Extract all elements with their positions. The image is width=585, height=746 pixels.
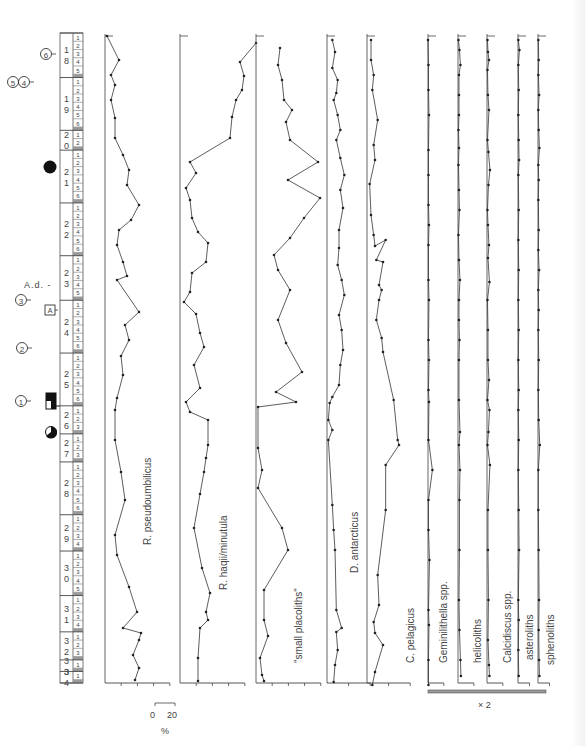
svg-text:1: 1 <box>76 152 80 158</box>
event-markers: 6 5 4 A.d. - 3 A 2 <box>8 49 61 439</box>
svg-text:4: 4 <box>76 622 80 628</box>
svg-text:4: 4 <box>76 104 80 110</box>
core-29: 291234 <box>60 515 83 551</box>
svg-text:4: 4 <box>76 541 80 547</box>
svg-text:4: 4 <box>76 380 80 386</box>
svg-text:2: 2 <box>76 266 80 272</box>
label-d-antarcticus: D. antarcticus <box>349 512 360 573</box>
panel-3 <box>327 34 370 686</box>
svg-text:3: 3 <box>64 667 69 677</box>
label-r-pseudoumbilicus: R. pseudoumbilicus <box>142 458 153 545</box>
svg-text:1: 1 <box>19 398 24 407</box>
svg-text:2: 2 <box>76 642 80 648</box>
svg-text:2: 2 <box>76 472 80 478</box>
svg-text:1: 1 <box>76 132 80 138</box>
svg-text:1: 1 <box>64 45 69 55</box>
svg-text:4: 4 <box>76 282 80 288</box>
svg-text:3: 3 <box>76 533 80 539</box>
svg-text:4: 4 <box>76 59 80 65</box>
half-filled-circle-icon <box>46 427 58 439</box>
svg-text:3: 3 <box>19 297 24 306</box>
svg-text:3: 3 <box>76 569 80 575</box>
panel-0 <box>105 34 170 686</box>
svg-text:2: 2 <box>76 213 80 219</box>
svg-text:3: 3 <box>76 221 80 227</box>
marker-2: 2 <box>17 343 33 354</box>
marker-5-4: 5 4 <box>8 77 35 88</box>
core-26: 26123 <box>60 406 83 434</box>
svg-text:1: 1 <box>76 302 80 308</box>
percent-scale-bar: 0 20 % <box>150 703 177 736</box>
label-small-placoliths: "small placoliths" <box>293 588 304 663</box>
svg-text:0: 0 <box>64 574 69 584</box>
panel-7 <box>486 34 503 686</box>
svg-text:5: 5 <box>64 380 69 390</box>
magnification-bracket: × 2 <box>428 690 546 710</box>
svg-text:4: 4 <box>76 327 80 333</box>
svg-text:2: 2 <box>76 444 80 450</box>
core-20: 2012 <box>60 130 83 151</box>
svg-text:3: 3 <box>76 650 80 656</box>
svg-text:1: 1 <box>64 615 69 625</box>
svg-text:1: 1 <box>64 178 69 188</box>
svg-text:3: 3 <box>64 563 69 573</box>
svg-text:6: 6 <box>64 421 69 431</box>
svg-text:3: 3 <box>76 96 80 102</box>
core-18: 1812345 <box>60 33 83 78</box>
stratigraphic-abundance-chart: 1812345191234562012211234562212345623123… <box>0 0 585 746</box>
svg-text:3: 3 <box>76 452 80 458</box>
svg-text:3: 3 <box>76 168 80 174</box>
species-panels <box>105 34 550 686</box>
svg-text:3: 3 <box>76 319 80 325</box>
svg-text:1: 1 <box>76 436 80 442</box>
panel-6 <box>457 34 474 686</box>
label-helicoliths: helicoliths <box>472 619 483 663</box>
svg-text:9: 9 <box>64 534 69 544</box>
core-24: 24123456 <box>60 300 83 353</box>
svg-text:4: 4 <box>76 229 80 235</box>
svg-text:1: 1 <box>76 79 80 85</box>
boxed-a-marker: A <box>45 305 58 315</box>
magnification-note: × 2 <box>478 700 491 710</box>
marker-3: 3 <box>16 295 32 306</box>
svg-text:9: 9 <box>64 105 69 115</box>
polarity-block-icon <box>46 393 60 409</box>
core-30: 3012345 <box>60 551 83 596</box>
panel-4 <box>367 34 410 686</box>
label-calcidiscus: Calcidiscus spp. <box>502 591 513 663</box>
label-r-haqii-minutula: R. haqii/minutula <box>218 515 229 590</box>
label-c-pelagicus: C. pelagicus <box>405 608 416 663</box>
svg-text:A: A <box>48 307 53 314</box>
svg-text:3: 3 <box>64 279 69 289</box>
core-19: 19123456 <box>60 78 83 131</box>
label-geminilithella: Geminilithella spp. <box>438 581 449 663</box>
svg-text:8: 8 <box>64 489 69 499</box>
svg-text:3: 3 <box>64 656 69 666</box>
svg-text:4: 4 <box>22 79 27 88</box>
core-23: 2312345 <box>60 256 83 301</box>
svg-text:2: 2 <box>76 606 80 612</box>
svg-text:2: 2 <box>64 167 69 177</box>
svg-text:1: 1 <box>76 464 80 470</box>
svg-text:2: 2 <box>76 363 80 369</box>
svg-text:1: 1 <box>76 662 80 668</box>
svg-text:1: 1 <box>76 634 80 640</box>
svg-text:1: 1 <box>76 408 80 414</box>
svg-text:5: 5 <box>76 335 80 341</box>
core-21: 21123456 <box>60 150 83 203</box>
svg-text:3: 3 <box>76 424 80 430</box>
core-27: 27123 <box>60 434 83 462</box>
svg-text:4: 4 <box>76 578 80 584</box>
svg-text:2: 2 <box>76 525 80 531</box>
svg-text:2: 2 <box>64 438 69 448</box>
svg-text:5: 5 <box>76 497 80 503</box>
svg-text:3: 3 <box>64 636 69 646</box>
svg-text:8: 8 <box>64 56 69 66</box>
svg-text:5: 5 <box>76 68 80 74</box>
svg-text:2: 2 <box>20 345 25 354</box>
svg-text:3: 3 <box>64 604 69 614</box>
svg-text:2: 2 <box>64 268 69 278</box>
svg-text:6: 6 <box>76 121 80 127</box>
svg-text:5: 5 <box>76 586 80 592</box>
svg-text:1: 1 <box>76 35 80 41</box>
